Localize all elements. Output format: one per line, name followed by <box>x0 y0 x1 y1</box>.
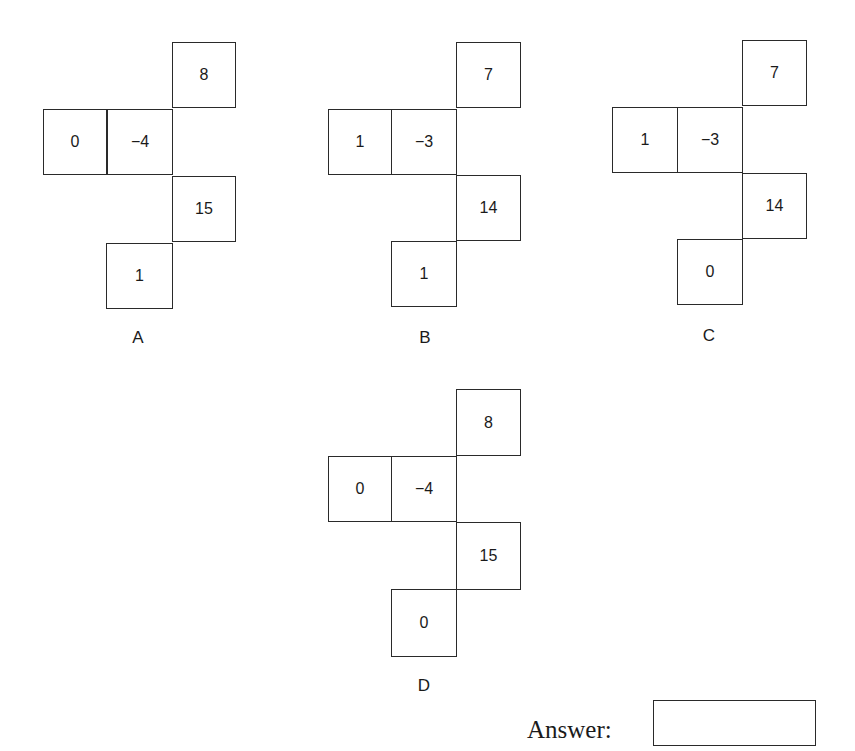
cell-left-outer: 1 <box>328 109 392 175</box>
cell-top: 7 <box>456 42 521 108</box>
cell-right-lower: 14 <box>742 173 807 239</box>
cell-top: 7 <box>742 40 807 106</box>
cell-left-outer: 0 <box>43 109 107 175</box>
cell-bottom: 1 <box>391 241 457 307</box>
cell-left-outer: 1 <box>612 107 678 173</box>
cell-top: 8 <box>456 389 521 456</box>
figure-d: 8 0 −4 15 0 <box>328 389 528 699</box>
figure-c-label: C <box>694 326 724 346</box>
cell-left-outer: 0 <box>328 456 392 522</box>
cell-bottom: 1 <box>106 243 173 309</box>
cell-right-lower: 14 <box>456 175 521 241</box>
answer-input[interactable] <box>653 700 816 746</box>
cell-top: 8 <box>172 42 236 108</box>
cell-bottom: 0 <box>391 589 457 657</box>
figure-a-label: A <box>123 328 153 348</box>
cell-left-inner: −3 <box>677 107 743 173</box>
cell-left-inner: −4 <box>391 456 457 522</box>
answer-label: Answer: <box>527 716 612 744</box>
figure-b-label: B <box>410 328 440 348</box>
cell-left-inner: −3 <box>391 109 457 175</box>
cell-left-inner: −4 <box>107 109 173 175</box>
cell-bottom: 0 <box>677 239 743 305</box>
figure-d-label: D <box>409 676 439 696</box>
figure-b: 7 1 −3 14 1 <box>328 42 528 352</box>
cell-right-lower: 15 <box>456 522 521 590</box>
figure-a: 8 0 −4 15 1 <box>43 42 243 352</box>
cell-right-lower: 15 <box>172 176 236 242</box>
figure-c: 7 1 −3 14 0 <box>612 40 812 350</box>
